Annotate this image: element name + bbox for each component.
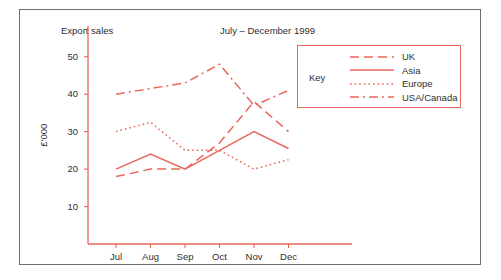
legend-entry-label: Asia [402,65,420,76]
chart-figure: Export sales July – December 1999 £'000 … [19,9,481,265]
x-tick-label: Oct [202,251,238,262]
legend-entry: USA/Canada [350,91,456,105]
y-tick-label: 50 [52,51,78,62]
x-tick-label: Dec [271,251,307,262]
legend-entry-label: USA/Canada [402,92,457,103]
x-tick-label: Aug [133,251,169,262]
chart-legend: Key UKAsiaEuropeUSA/Canada [297,45,461,108]
legend-title: Key [309,72,325,83]
legend-line-swatch [350,78,394,90]
legend-entry: UK [350,50,456,64]
y-tick-label: 10 [52,201,78,212]
series-line-europe [116,122,289,169]
legend-entry-label: Europe [402,78,433,89]
x-tick-label: Nov [236,251,272,262]
y-tick-label: 40 [52,88,78,99]
series-line-usa-canada [116,64,289,105]
y-tick-label: 30 [52,126,78,137]
x-tick-label: Sep [167,251,203,262]
legend-line-swatch [350,51,394,63]
legend-line-swatch [350,91,394,103]
legend-entry-label: UK [402,51,415,62]
legend-entry-list: UKAsiaEuropeUSA/Canada [350,50,456,104]
x-tick-label: Jul [98,251,134,262]
legend-entry: Asia [350,64,456,78]
legend-line-swatch [350,64,394,76]
series-line-uk [116,102,289,177]
plot-stage: Export sales July – December 1999 £'000 … [20,10,480,264]
y-tick-label: 20 [52,163,78,174]
legend-entry: Europe [350,77,456,91]
